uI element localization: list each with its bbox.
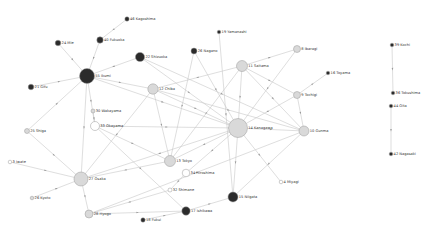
node-14[interactable]: 14 Kanagawa	[229, 119, 273, 138]
node-4[interactable]: 4 Miyagi	[279, 180, 299, 184]
node-circle[interactable]	[279, 180, 283, 184]
node-36[interactable]: 36 Tokushima	[391, 91, 420, 95]
node-label: 32 Shimane	[173, 188, 195, 192]
node-circle[interactable]	[8, 160, 12, 164]
node-34[interactable]: 34 Hiroshima	[182, 169, 214, 177]
node-circle[interactable]	[91, 109, 95, 113]
node-15[interactable]: 15 Niigata	[228, 192, 257, 202]
node-circle[interactable]	[294, 46, 301, 53]
node-circle[interactable]	[391, 91, 395, 95]
node-42[interactable]: 42 Nagasaki	[389, 152, 416, 156]
edge-arrow-icon	[93, 57, 95, 60]
node-circle[interactable]	[191, 48, 197, 54]
node-16[interactable]: 16 Toyama	[326, 71, 350, 75]
node-label: 42 Nagasaki	[394, 152, 416, 156]
node-label: 26 Kyoto	[35, 196, 51, 200]
node-label: 24 Mie	[62, 41, 75, 45]
node-circle[interactable]	[182, 169, 190, 177]
node-label: 21 Gifu	[35, 85, 48, 89]
node-3[interactable]: 3 Iwate	[8, 160, 26, 164]
node-21[interactable]: 21 Gifu	[28, 84, 47, 90]
node-circle[interactable]	[85, 210, 93, 218]
edge-arrow-icon	[128, 201, 131, 203]
node-circle[interactable]	[97, 37, 103, 43]
node-27[interactable]: 27 Osaka	[74, 172, 106, 186]
node-label: 26 Nagano	[198, 49, 218, 53]
edge-arrow-icon	[83, 126, 85, 129]
node-circle[interactable]	[228, 192, 238, 202]
node-label: 33 Okayama	[100, 124, 123, 128]
node-46[interactable]: 46 Kagoshima	[125, 17, 156, 22]
node-circle[interactable]	[390, 43, 394, 47]
edge-arrow-icon	[268, 79, 271, 81]
node-9[interactable]: 9 Tochigi	[294, 92, 318, 99]
node-circle[interactable]	[237, 61, 248, 72]
node-circle[interactable]	[217, 30, 221, 34]
node-circle[interactable]	[125, 17, 129, 21]
node-19[interactable]: 19 Yamanashi	[217, 30, 246, 34]
node-17[interactable]: 17 Ishikawa	[182, 207, 212, 215]
node-circle[interactable]	[299, 126, 309, 136]
node-8[interactable]: 8 Ibaragi	[294, 46, 318, 53]
node-label: 39 Kochi	[395, 43, 410, 47]
node-circle[interactable]	[135, 52, 144, 61]
node-circle[interactable]	[168, 188, 172, 192]
node-circle[interactable]	[326, 71, 330, 75]
node-label: 30 Wakayama	[96, 109, 122, 113]
node-24[interactable]: 24 Mie	[55, 40, 74, 46]
node-label: 18 Fukui	[146, 218, 161, 222]
node-label: 15 Niigata	[239, 195, 257, 199]
node-circle[interactable]	[80, 69, 95, 84]
node-circle[interactable]	[294, 92, 301, 99]
edge-arrow-icon	[196, 76, 199, 78]
edge-arrow-icon	[208, 204, 211, 206]
node-label: 28 Hyogo	[94, 212, 111, 216]
node-circle[interactable]	[389, 152, 393, 156]
node-circle[interactable]	[148, 84, 158, 94]
node-label: 10 Gunma	[310, 129, 329, 133]
node-18[interactable]: 18 Fukui	[141, 218, 161, 223]
node-circle[interactable]	[91, 122, 100, 131]
edge-arrow-icon	[215, 88, 217, 91]
edge-arrow-icon	[390, 129, 392, 132]
node-label: 14 Kanagawa	[248, 126, 272, 130]
node-26b[interactable]: 26 Kyoto	[30, 196, 50, 200]
edge-arrow-icon	[158, 152, 161, 154]
node-10[interactable]: 10 Gunma	[299, 126, 329, 136]
node-39[interactable]: 39 Kochi	[390, 43, 410, 47]
node-44[interactable]: 44 Oita	[389, 104, 407, 108]
edge-arrow-icon	[84, 195, 86, 198]
node-40[interactable]: 40 Fukuoka	[97, 37, 125, 43]
edge-arrow-icon	[227, 109, 230, 111]
node-circle[interactable]	[30, 196, 34, 200]
edge-arrow-icon	[112, 65, 115, 67]
node-circle[interactable]	[141, 218, 145, 222]
node-25[interactable]: 25 Shiga	[25, 129, 47, 134]
node-circle[interactable]	[182, 207, 190, 215]
node-22[interactable]: 22 Shizuoka	[135, 52, 167, 61]
node-circle[interactable]	[28, 84, 34, 90]
node-11[interactable]: 11 Saitama	[237, 61, 269, 72]
node-circle[interactable]	[25, 129, 30, 134]
node-label: 40 Fukuoka	[104, 38, 125, 42]
edge-arrow-icon	[221, 93, 224, 95]
edge-arrow-icon	[160, 124, 162, 127]
node-label: 12 Chiba	[159, 87, 175, 91]
node-label: 13 Tokyo	[176, 159, 192, 163]
node-circle[interactable]	[74, 172, 88, 186]
node-label: 27 Osaka	[89, 177, 106, 181]
node-label: 55 Ikumi	[95, 74, 111, 78]
node-label: 17 Ishikawa	[191, 209, 212, 213]
node-55[interactable]: 55 Ikumi	[80, 69, 111, 84]
node-circle[interactable]	[229, 119, 248, 138]
node-circle[interactable]	[165, 156, 176, 167]
node-label: 4 Miyagi	[284, 180, 299, 184]
node-33[interactable]: 33 Okayama	[91, 122, 124, 131]
node-label: 44 Oita	[394, 104, 407, 108]
node-32[interactable]: 32 Shimane	[168, 188, 195, 192]
node-26[interactable]: 26 Nagano	[191, 48, 217, 54]
node-30[interactable]: 30 Wakayama	[91, 109, 121, 113]
node-circle[interactable]	[55, 40, 61, 46]
node-circle[interactable]	[389, 104, 393, 108]
edge-arrow-icon	[203, 143, 206, 145]
